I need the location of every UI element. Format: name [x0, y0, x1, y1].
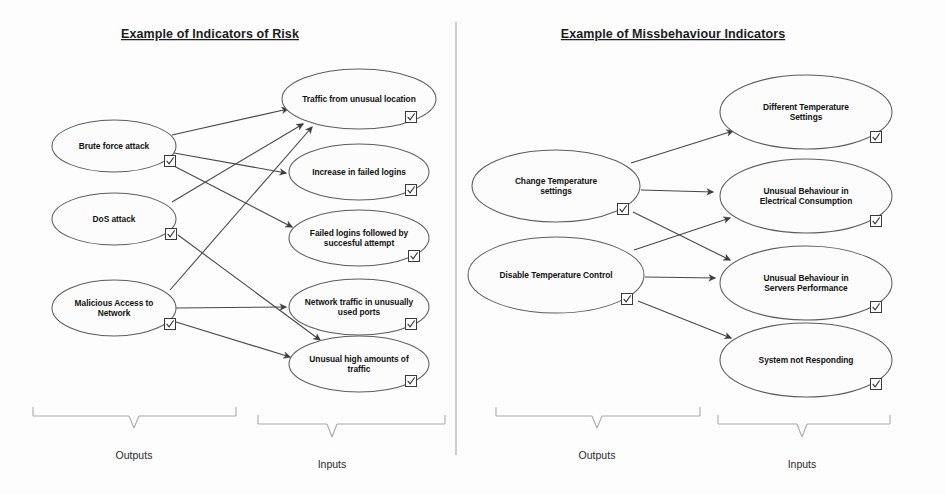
node-malicious[interactable]: Malicious Access toNetwork — [52, 280, 176, 336]
checkbox-brute[interactable] — [165, 156, 176, 167]
checkbox-box-failed-then-success — [409, 251, 420, 262]
node-disable-temp[interactable]: Disable Temperature Control — [468, 237, 644, 313]
checkbox-increase-failed-logins[interactable] — [406, 185, 417, 196]
node-unusual-electrical[interactable]: Unusual Behaviour inElectrical Consumpti… — [720, 159, 892, 233]
checkbox-change-temp[interactable] — [618, 204, 629, 215]
checkbox-box-network-traffic-ports — [406, 319, 417, 330]
edge-brute-to-traffic-unusual-loc — [172, 109, 288, 135]
node-brute[interactable]: Brute force attack — [52, 120, 176, 172]
node-label-dos: DoS attack — [93, 214, 136, 224]
node-unusual-servers[interactable]: Unusual Behaviour inServers Performance — [720, 246, 892, 320]
checkbox-failed-then-success[interactable] — [409, 251, 420, 262]
node-dos[interactable]: DoS attack — [52, 193, 176, 245]
checkbox-dos[interactable] — [166, 229, 177, 240]
inputs-label-risk: Inputs — [318, 458, 347, 470]
checkbox-box-increase-failed-logins — [406, 185, 417, 196]
checkbox-traffic-unusual-loc[interactable] — [406, 112, 417, 123]
node-label-brute: Brute force attack — [79, 141, 150, 151]
checkbox-box-malicious — [165, 319, 176, 330]
node-label-system-not-responding: System not Responding — [759, 355, 854, 365]
outputs-brace-misbehaviour — [496, 407, 700, 428]
checkbox-box-different-temp-settings — [871, 132, 882, 143]
checkbox-different-temp-settings[interactable] — [871, 132, 882, 143]
diagram-root: Example of Indicators of RiskBrute force… — [0, 0, 946, 494]
edge-brute-to-increase-failed-logins — [174, 153, 286, 173]
node-change-temp[interactable]: Change Temperaturesettings — [472, 150, 640, 222]
checkbox-box-unusual-servers — [871, 302, 882, 313]
node-label-disable-temp: Disable Temperature Control — [500, 270, 613, 280]
panel-risk: Example of Indicators of RiskBrute force… — [33, 27, 445, 470]
outputs-label-misbehaviour: Outputs — [579, 449, 616, 461]
edge-malicious-to-network-traffic-ports — [176, 307, 286, 308]
outputs-brace-risk — [33, 407, 236, 428]
checkbox-disable-temp[interactable] — [622, 294, 633, 305]
edge-disable-temp-to-unusual-electrical — [634, 218, 730, 250]
edge-malicious-to-traffic-unusual-loc — [170, 127, 312, 290]
checkbox-box-change-temp — [618, 204, 629, 215]
inputs-brace-risk — [258, 415, 445, 437]
panel-title-risk: Example of Indicators of Risk — [121, 27, 299, 41]
node-system-not-responding[interactable]: System not Responding — [720, 323, 892, 397]
edge-change-temp-to-different-temp-settings — [631, 131, 733, 163]
checkbox-unusual-high-traffic[interactable] — [406, 376, 417, 387]
checkbox-system-not-responding[interactable] — [871, 379, 882, 390]
edge-change-temp-to-unusual-servers — [633, 212, 730, 260]
edge-disable-temp-to-system-not-responding — [638, 301, 731, 338]
panel-title-misbehaviour: Example of Missbehaviour Indicators — [561, 27, 785, 41]
checkbox-box-dos — [166, 229, 177, 240]
diagram-canvas: Example of Indicators of RiskBrute force… — [0, 0, 946, 494]
node-label-failed-then-success: Failed logins followed bysuccesful attem… — [310, 228, 409, 248]
checkbox-unusual-electrical[interactable] — [871, 216, 882, 227]
node-label-unusual-servers: Unusual Behaviour inServers Performance — [763, 273, 848, 293]
edge-disable-temp-to-unusual-servers — [645, 277, 715, 278]
outputs-label-risk: Outputs — [116, 449, 153, 461]
checkbox-box-brute — [165, 156, 176, 167]
checkbox-box-unusual-high-traffic — [406, 376, 417, 387]
checkbox-unusual-servers[interactable] — [871, 302, 882, 313]
checkbox-box-system-not-responding — [871, 379, 882, 390]
node-label-traffic-unusual-loc: Traffic from unusual location — [302, 94, 416, 104]
node-label-unusual-electrical: Unusual Behaviour inElectrical Consumpti… — [760, 186, 852, 206]
checkbox-network-traffic-ports[interactable] — [406, 319, 417, 330]
edge-malicious-to-unusual-high-traffic — [176, 322, 290, 357]
panel-misbehaviour: Example of Missbehaviour IndicatorsChang… — [468, 27, 892, 470]
checkbox-box-disable-temp — [622, 294, 633, 305]
checkbox-box-unusual-electrical — [871, 216, 882, 227]
edge-brute-to-failed-then-success — [172, 165, 292, 227]
edge-dos-to-traffic-unusual-loc — [172, 124, 303, 202]
inputs-brace-misbehaviour — [718, 415, 890, 437]
node-different-temp-settings[interactable]: Different TemperatureSettings — [720, 75, 892, 149]
checkbox-box-traffic-unusual-loc — [406, 112, 417, 123]
inputs-label-misbehaviour: Inputs — [788, 458, 817, 470]
checkbox-malicious[interactable] — [165, 319, 176, 330]
edge-change-temp-to-unusual-electrical — [641, 190, 713, 192]
node-label-increase-failed-logins: Increase in failed logins — [312, 167, 406, 177]
